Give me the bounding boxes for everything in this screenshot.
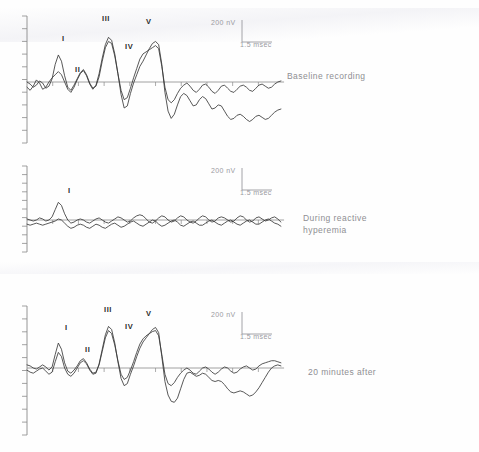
peak-label-iv-p2: IV xyxy=(125,322,133,331)
scalebar-amplitude-label-2: 200 nV xyxy=(211,167,236,174)
abr-trace-trace-a xyxy=(27,41,281,102)
scalebar-time-label-2: 1.5 msec xyxy=(240,189,272,196)
peak-label-i-p0: I xyxy=(62,34,65,43)
scalebar-amplitude-label-3: 200 nV xyxy=(211,311,236,318)
peak-label-iii-p0: III xyxy=(102,14,110,23)
peak-label-ii-p2: II xyxy=(85,345,90,354)
peak-label-iii-p2: III xyxy=(104,305,112,314)
abr-panel-hyperemia xyxy=(0,152,479,262)
peak-label-ii-p0: II xyxy=(75,65,80,74)
waveform-plot-twenty-min xyxy=(0,292,479,442)
scale-bar xyxy=(242,168,272,190)
abr-panel-baseline: 200 nV 1.5 msec xyxy=(0,0,479,150)
panel-caption-twenty-min: 20 minutes after xyxy=(308,366,376,378)
peak-label-i-p1: I xyxy=(68,186,71,195)
scalebar-amplitude-label: 200 nV xyxy=(211,19,236,26)
panel-caption-baseline: Baseline recording xyxy=(287,70,366,82)
scan-artifact-band-lower xyxy=(0,262,479,274)
scalebar-time-label-3: 1.5 msec xyxy=(240,333,272,340)
scale-bar xyxy=(242,312,272,334)
peak-label-iv-p0: IV xyxy=(125,42,133,51)
abr-panel-twenty-min xyxy=(0,292,479,442)
peak-label-v-p2: V xyxy=(146,309,152,318)
peak-label-i-p2: I xyxy=(65,323,68,332)
peak-label-v-p0: V xyxy=(146,17,152,26)
scale-bar xyxy=(242,20,272,42)
abr-trace-trace-b xyxy=(27,37,281,121)
scalebar-time-label: 1.5 msec xyxy=(240,41,272,48)
waveform-plot-hyperemia xyxy=(0,152,479,262)
waveform-plot-baseline xyxy=(0,0,479,150)
panel-caption-hyperemia: During reactive hyperemia xyxy=(303,212,367,236)
